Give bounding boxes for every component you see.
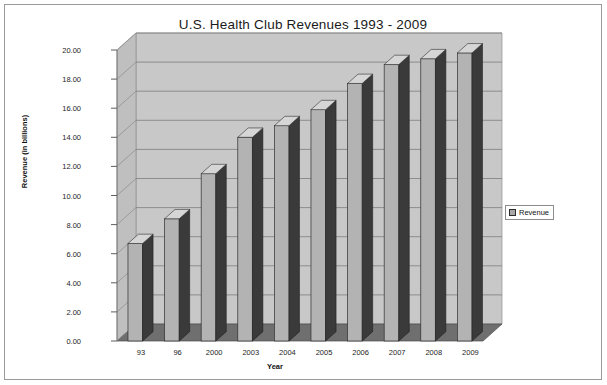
y-axis-tick-label: 2.00: [43, 307, 81, 316]
bar-front-face: [384, 65, 399, 341]
y-axis-tick-label: 14.00: [43, 133, 81, 142]
bar-96: [165, 209, 190, 341]
y-axis-tick-label: 18.00: [43, 75, 81, 84]
y-axis-tick-label: 0.00: [43, 337, 81, 346]
y-axis-tick-label: 16.00: [43, 104, 81, 113]
bar-side-face: [435, 49, 445, 341]
bar-side-face: [326, 100, 336, 341]
bar-side-face: [399, 55, 409, 341]
bar-2000: [201, 164, 226, 341]
y-axis-tick-label: 6.00: [43, 249, 81, 258]
bar-side-face: [472, 44, 482, 341]
bar-front-face: [421, 59, 436, 341]
y-axis-tick-label: 4.00: [43, 278, 81, 287]
bar-front-face: [238, 137, 253, 341]
x-axis-tick-label: 2009: [448, 348, 492, 357]
bar-front-face: [348, 83, 363, 341]
bar-front-face: [457, 53, 472, 341]
bar-side-face: [143, 234, 153, 341]
bar-front-face: [128, 244, 143, 341]
bar-2008: [421, 49, 446, 341]
y-axis-title: Revenue (in billions): [20, 97, 29, 207]
bar-93: [128, 234, 153, 341]
bar-side-face: [289, 116, 299, 341]
chart-canvas: [5, 5, 603, 381]
bar-front-face: [311, 110, 326, 341]
bar-front-face: [201, 174, 216, 341]
bar-side-face: [179, 209, 189, 341]
y-axis-tick-label: 12.00: [43, 162, 81, 171]
bar-front-face: [274, 126, 289, 341]
bar-side-face: [362, 74, 372, 341]
chart-legend: Revenue: [505, 205, 554, 220]
y-axis-tick-labels: 0.002.004.006.008.0010.0012.0014.0016.00…: [43, 5, 81, 381]
y-axis-tick-label: 20.00: [43, 46, 81, 55]
bar-2006: [348, 74, 373, 341]
legend-label-revenue: Revenue: [519, 208, 549, 217]
bar-2007: [384, 55, 409, 341]
bar-front-face: [165, 219, 180, 341]
legend-swatch-revenue: [509, 209, 516, 216]
bar-side-face: [216, 164, 226, 341]
bar-2009: [457, 44, 482, 341]
bar-2003: [238, 128, 263, 341]
y-axis-tick-label: 8.00: [43, 220, 81, 229]
bar-2005: [311, 100, 336, 341]
bar-side-face: [252, 128, 262, 341]
plot-area: 0.002.004.006.008.0010.0012.0014.0016.00…: [5, 5, 603, 381]
x-axis-title: Year: [115, 362, 435, 371]
chart-frame: U.S. Health Club Revenues 1993 - 2009 0.…: [4, 4, 602, 380]
bar-2004: [274, 116, 299, 341]
y-axis-tick-label: 10.00: [43, 191, 81, 200]
